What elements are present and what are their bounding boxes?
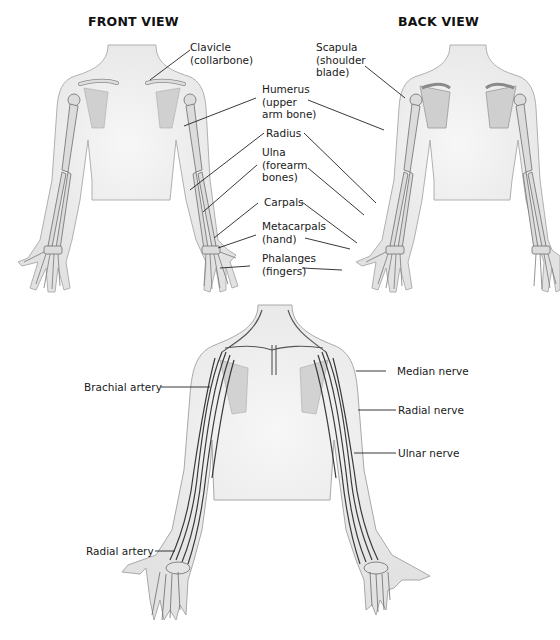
label-carpals: Carpals [264,196,304,209]
label-radius: Radius [266,127,301,140]
label-scapula: Scapula (shoulder blade) [316,41,366,79]
label-ulna: Ulna (forearm bones) [262,146,308,184]
label-phalanges: Phalanges (fingers) [262,252,316,277]
upper-limb-anatomy-diagram: FRONT VIEW BACK VIEW Clavicle (collarbon… [0,0,560,640]
label-ulnar-nerve: Ulnar nerve [398,447,459,460]
back-view-figure [356,45,560,292]
label-brachial-artery: Brachial artery [84,381,162,394]
label-radial-artery: Radial artery [86,545,154,558]
back-view-title: BACK VIEW [398,14,479,29]
label-radial-nerve: Radial nerve [398,404,464,417]
front-view-figure [18,45,238,292]
label-humerus: Humerus (upper arm bone) [262,83,316,121]
label-median-nerve: Median nerve [397,365,469,378]
front-view-title: FRONT VIEW [88,14,179,29]
label-metacarpals: Metacarpals (hand) [262,220,326,245]
vascular-nerve-figure [122,305,430,620]
label-clavicle: Clavicle (collarbone) [190,41,253,66]
